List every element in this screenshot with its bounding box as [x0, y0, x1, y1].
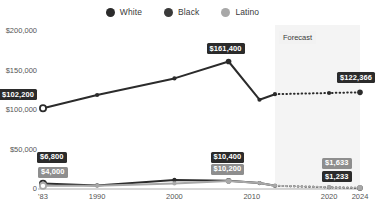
x-axis-tick-label: 2000 [156, 192, 192, 201]
x-axis-tick-label: 2010 [234, 192, 270, 201]
data-point-marker [172, 76, 176, 80]
data-point-marker [357, 90, 363, 96]
data-point-marker [273, 184, 277, 188]
x-axis-tick-label: 1990 [79, 192, 115, 201]
x-axis-tick-label: '83 [25, 192, 61, 201]
data-point-marker [95, 93, 99, 97]
data-point-label: $4,000 [38, 167, 68, 178]
y-axis-tick-label: $200,000 [6, 26, 37, 35]
data-point-label: $10,400 [211, 152, 245, 163]
data-point-marker [226, 59, 232, 65]
data-point-label: $122,366 [337, 72, 375, 83]
data-point-marker [257, 98, 261, 102]
data-point-marker [95, 184, 99, 188]
data-point-label: $10,200 [211, 164, 245, 175]
x-axis-tick-label: 2024 [342, 192, 378, 201]
data-point-label: $1,233 [322, 171, 352, 182]
data-point-marker [172, 181, 176, 185]
series-line-white [43, 62, 275, 109]
data-point-marker [327, 185, 331, 189]
data-point-label: $1,633 [322, 158, 352, 169]
y-axis-tick-label: $150,000 [6, 66, 37, 75]
data-point-label: $6,800 [37, 152, 67, 163]
forecast-annotation: Forecast [279, 31, 316, 44]
data-point-marker [357, 185, 363, 191]
data-point-marker [40, 105, 46, 111]
data-point-marker [226, 178, 232, 184]
y-axis-tick-label: $50,000 [10, 145, 37, 154]
data-point-marker [327, 91, 331, 95]
data-point-label: $102,200 [0, 89, 37, 100]
data-point-marker [257, 181, 261, 185]
data-point-label: $161,400 [207, 43, 245, 54]
y-axis-tick-label: $100,000 [6, 105, 37, 114]
data-point-marker [273, 92, 277, 96]
data-point-marker [40, 183, 46, 189]
